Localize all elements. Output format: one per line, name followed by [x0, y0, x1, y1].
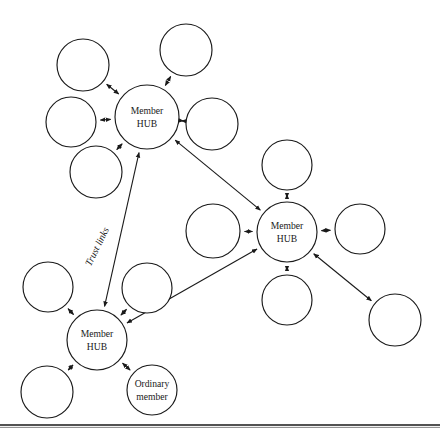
- member-link-line: [123, 363, 131, 370]
- member-node[interactable]: [335, 204, 385, 254]
- member-node[interactable]: [46, 97, 96, 147]
- node-label-line2: HUB: [137, 118, 157, 129]
- member-link-line: [68, 309, 74, 315]
- member-link-line: [117, 144, 122, 150]
- member-node[interactable]: [262, 140, 312, 190]
- node-circle[interactable]: [335, 204, 385, 254]
- node-circle[interactable]: [262, 140, 312, 190]
- member-node[interactable]: [262, 275, 312, 325]
- node-label-line1: Member: [271, 220, 304, 231]
- member-link-line: [100, 119, 110, 120]
- node-label-line1: Member: [81, 328, 114, 339]
- member-link-line: [165, 76, 170, 85]
- member-node[interactable]: [57, 39, 109, 91]
- member-node[interactable]: [186, 204, 240, 258]
- node-circle[interactable]: [262, 275, 312, 325]
- member-hub-node[interactable]: MemberHUB: [115, 85, 179, 149]
- node-circle[interactable]: [369, 294, 421, 346]
- member-link-line: [107, 84, 119, 94]
- node-label-line2: member: [136, 391, 168, 402]
- diagram-canvas: MemberHUBMemberHUBMemberHUBOrdinarymembe…: [0, 0, 440, 440]
- node-circle[interactable]: [21, 366, 73, 418]
- node-circle[interactable]: [186, 98, 238, 150]
- member-node[interactable]: [122, 263, 172, 313]
- ordinary-member-node[interactable]: Ordinarymember: [127, 365, 177, 415]
- node-circle[interactable]: [46, 97, 96, 147]
- member-link-line: [121, 309, 127, 315]
- member-link-line: [314, 254, 372, 301]
- member-node[interactable]: [70, 146, 122, 198]
- member-link-line: [68, 365, 73, 370]
- member-node[interactable]: [160, 24, 212, 76]
- node-circle[interactable]: [186, 204, 240, 258]
- footer-rule: [0, 425, 440, 427]
- node-circle[interactable]: [122, 263, 172, 313]
- nodes-layer: MemberHUBMemberHUBMemberHUBOrdinarymembe…: [21, 24, 421, 418]
- trust-link-line: [175, 140, 260, 210]
- member-node[interactable]: [23, 262, 73, 312]
- node-circle[interactable]: [70, 146, 122, 198]
- network-diagram-figure: MemberHUBMemberHUBMemberHUBOrdinarymembe…: [0, 0, 440, 440]
- node-label-line1: Member: [131, 105, 164, 116]
- node-label-line2: HUB: [277, 233, 297, 244]
- member-hub-node[interactable]: MemberHUB: [67, 310, 127, 370]
- trust-links-label: Trust links: [83, 225, 111, 268]
- node-circle[interactable]: [57, 39, 109, 91]
- member-node[interactable]: [186, 98, 238, 150]
- node-circle[interactable]: [160, 24, 212, 76]
- member-node[interactable]: [369, 294, 421, 346]
- node-label-line1: Ordinary: [135, 378, 170, 389]
- annotations-layer: Trust links: [83, 225, 111, 268]
- member-node[interactable]: [21, 366, 73, 418]
- node-label-line2: HUB: [87, 341, 107, 352]
- member-hub-node[interactable]: MemberHUB: [257, 202, 317, 262]
- node-circle[interactable]: [23, 262, 73, 312]
